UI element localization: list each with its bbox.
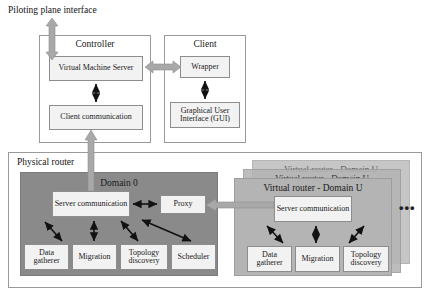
client-communication-node[interactable]: Client communication <box>49 105 143 130</box>
proxy-node[interactable]: Proxy <box>160 195 206 214</box>
physical-router-title: Physical router <box>17 157 74 167</box>
virtual-router-module-topology-discovery-label: Topology discovery <box>344 251 388 268</box>
gui-node[interactable]: Graphical User Interface (GUI) <box>170 102 240 128</box>
virtual-router-module-data-gatherer[interactable]: Data gatherer <box>247 246 292 272</box>
piloting-plane-interface-label: Piloting plane interface <box>8 5 97 15</box>
domain0-module-migration-label: Migration <box>79 253 111 261</box>
client-title: Client <box>165 39 245 49</box>
wrapper-node[interactable]: Wrapper <box>180 56 230 78</box>
client-communication-label: Client communication <box>60 113 131 121</box>
virtual-router-module-migration-label: Migration <box>302 255 334 263</box>
controller-title: Controller <box>40 39 150 49</box>
domain0-server-communication-node[interactable]: Server communication <box>52 191 130 217</box>
domain0-module-scheduler-label: Scheduler <box>178 253 210 261</box>
virtual-router-module-topology-discovery[interactable]: Topology discovery <box>343 246 389 272</box>
proxy-label: Proxy <box>173 200 192 208</box>
virtual-router-server-communication-node[interactable]: Server communication <box>274 196 352 222</box>
domain0-title: Domain 0 <box>21 178 217 188</box>
wrapper-label: Wrapper <box>191 63 219 71</box>
virtual-router-module-migration[interactable]: Migration <box>295 246 340 272</box>
more-virtual-routers-indicator: ••• <box>399 200 416 215</box>
virtual-machine-server-node[interactable]: Virtual Machine Server <box>49 56 143 81</box>
domain0-module-data-gatherer-label: Data gatherer <box>25 249 68 266</box>
figure-canvas: Piloting plane interface Controller Virt… <box>0 0 432 298</box>
virtual-router-server-communication-label: Server communication <box>277 205 350 213</box>
virtual-router-title: Virtual router - Domain U <box>235 183 391 193</box>
gui-label: Graphical User Interface (GUI) <box>171 107 239 124</box>
domain0-module-topology-discovery-label: Topology discovery <box>121 249 167 266</box>
domain0-module-scheduler[interactable]: Scheduler <box>171 244 216 270</box>
domain0-module-migration[interactable]: Migration <box>72 244 117 270</box>
domain0-module-topology-discovery[interactable]: Topology discovery <box>120 244 168 270</box>
virtual-router-module-data-gatherer-label: Data gatherer <box>248 251 291 268</box>
domain0-server-communication-label: Server communication <box>55 200 128 208</box>
virtual-machine-server-label: Virtual Machine Server <box>58 64 133 72</box>
domain0-module-data-gatherer[interactable]: Data gatherer <box>24 244 69 270</box>
